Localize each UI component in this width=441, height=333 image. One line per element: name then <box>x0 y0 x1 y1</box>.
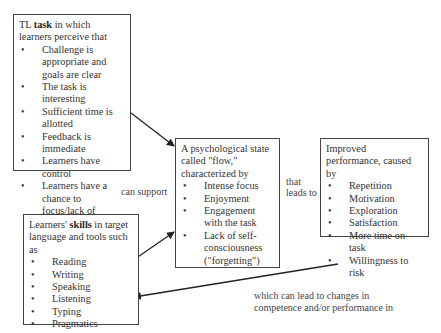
task-box-heading: TL task in which learners perceive that <box>19 19 125 44</box>
label-can-support: can support <box>121 186 167 198</box>
heading-text: Learners' <box>29 219 69 230</box>
list-item: Willingness to risk <box>326 255 423 280</box>
performance-box: Improved performance, caused by Repetiti… <box>320 138 429 237</box>
list-item: The task is interesting <box>19 81 125 106</box>
heading-bold-text: skills <box>69 219 91 230</box>
list-item: Listening <box>29 293 133 305</box>
list-item: Challenge is appropriate and goals are c… <box>19 44 125 81</box>
list-item: Exploration <box>326 205 423 217</box>
label-leads-to: leads to <box>286 187 317 199</box>
flow-box: A psychological state called "flow," cha… <box>175 138 280 268</box>
performance-box-heading: Improved performance, caused by <box>326 143 423 180</box>
task-box: TL task in which learners perceive that … <box>13 14 131 171</box>
skills-list: Reading Writing Speaking Listening Typin… <box>29 256 133 330</box>
flow-box-heading: A psychological state called "flow," cha… <box>181 143 274 180</box>
list-item: Enjoyment <box>181 193 274 205</box>
list-item: Speaking <box>29 281 133 293</box>
list-item: More time on task <box>326 230 423 255</box>
heading-bold-text: task <box>34 19 52 30</box>
performance-list: Repetition Motivation Exploration Satisf… <box>326 180 423 279</box>
list-item: Motivation <box>326 193 423 205</box>
list-item: Feedback is immediate <box>19 131 125 156</box>
skills-box-heading: Learners' skills in target language and … <box>29 219 133 256</box>
list-item: Typing <box>29 306 133 318</box>
arrow-task-to-flow <box>131 113 174 146</box>
flow-list: Intense focus Enjoyment Engagement with … <box>181 180 274 267</box>
skills-box: Learners' skills in target language and … <box>23 214 139 325</box>
task-list: Challenge is appropriate and goals are c… <box>19 44 125 230</box>
list-item: Pragmatics <box>29 318 133 330</box>
list-item: Intense focus <box>181 180 274 192</box>
list-item: Satisfaction <box>326 217 423 229</box>
heading-text: TL <box>19 19 34 30</box>
list-item: Lack of self-consciousness ("forgetting"… <box>181 230 274 267</box>
list-item: Repetition <box>326 180 423 192</box>
list-item: Reading <box>29 256 133 268</box>
label-which-can-lead-line2: competence and/or performance in <box>254 302 393 314</box>
list-item: Engagement with the task <box>181 205 274 230</box>
label-which-can-lead-line1: which can lead to changes in <box>254 290 369 302</box>
list-item: Learners have control <box>19 155 125 180</box>
list-item: Sufficient time is allotted <box>19 106 125 131</box>
list-item: Writing <box>29 269 133 281</box>
